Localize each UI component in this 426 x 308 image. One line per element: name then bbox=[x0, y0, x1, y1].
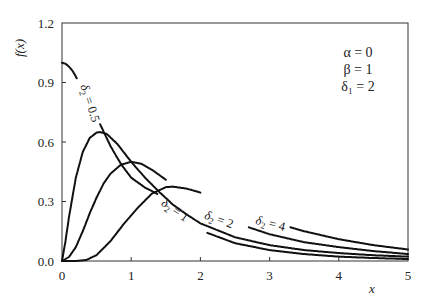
parameter-label: β = 1 bbox=[343, 62, 372, 77]
curve-4 bbox=[62, 187, 200, 261]
axis-ticks bbox=[62, 83, 339, 262]
parameter-label: δ₁ = 2 bbox=[341, 79, 374, 94]
x-tick-label: 2 bbox=[197, 268, 204, 283]
curve-label: δ2 = 4 bbox=[254, 213, 288, 236]
y-tick-label: 0.6 bbox=[38, 135, 55, 150]
density-chart: 012345 0.00.30.60.91.2 f(x) x α = 0β = 1… bbox=[0, 0, 426, 308]
y-tick-label: 0.0 bbox=[38, 254, 54, 269]
y-axis-label: f(x) bbox=[12, 39, 27, 57]
x-tick-label: 3 bbox=[266, 268, 273, 283]
x-tick-label: 1 bbox=[128, 268, 135, 283]
curve-label: δ2 = 2 bbox=[202, 208, 236, 233]
curve-label: δ2 = 0.5 bbox=[75, 82, 102, 124]
curve-label: δ2 = 1 bbox=[158, 196, 192, 226]
x-tick-label: 0 bbox=[59, 268, 66, 283]
y-tick-label: 0.9 bbox=[38, 75, 54, 90]
x-tick-label: 4 bbox=[336, 268, 343, 283]
curve-2 bbox=[62, 162, 166, 261]
parameter-block: α = 0β = 1δ₁ = 2 bbox=[341, 45, 374, 94]
x-tick-labels: 012345 bbox=[59, 268, 412, 283]
y-tick-label: 0.3 bbox=[38, 194, 54, 209]
curve-labels: δ2 = 0.5δ2 = 1δ2 = 2δ2 = 4 bbox=[75, 82, 287, 236]
y-tick-labels: 0.00.30.60.91.2 bbox=[38, 16, 55, 269]
x-axis-label: x bbox=[368, 281, 375, 296]
x-tick-label: 5 bbox=[405, 268, 412, 283]
curve-0-5 bbox=[62, 63, 77, 79]
y-tick-label: 1.2 bbox=[38, 16, 54, 31]
curve-4 bbox=[290, 227, 408, 249]
parameter-label: α = 0 bbox=[343, 45, 372, 60]
